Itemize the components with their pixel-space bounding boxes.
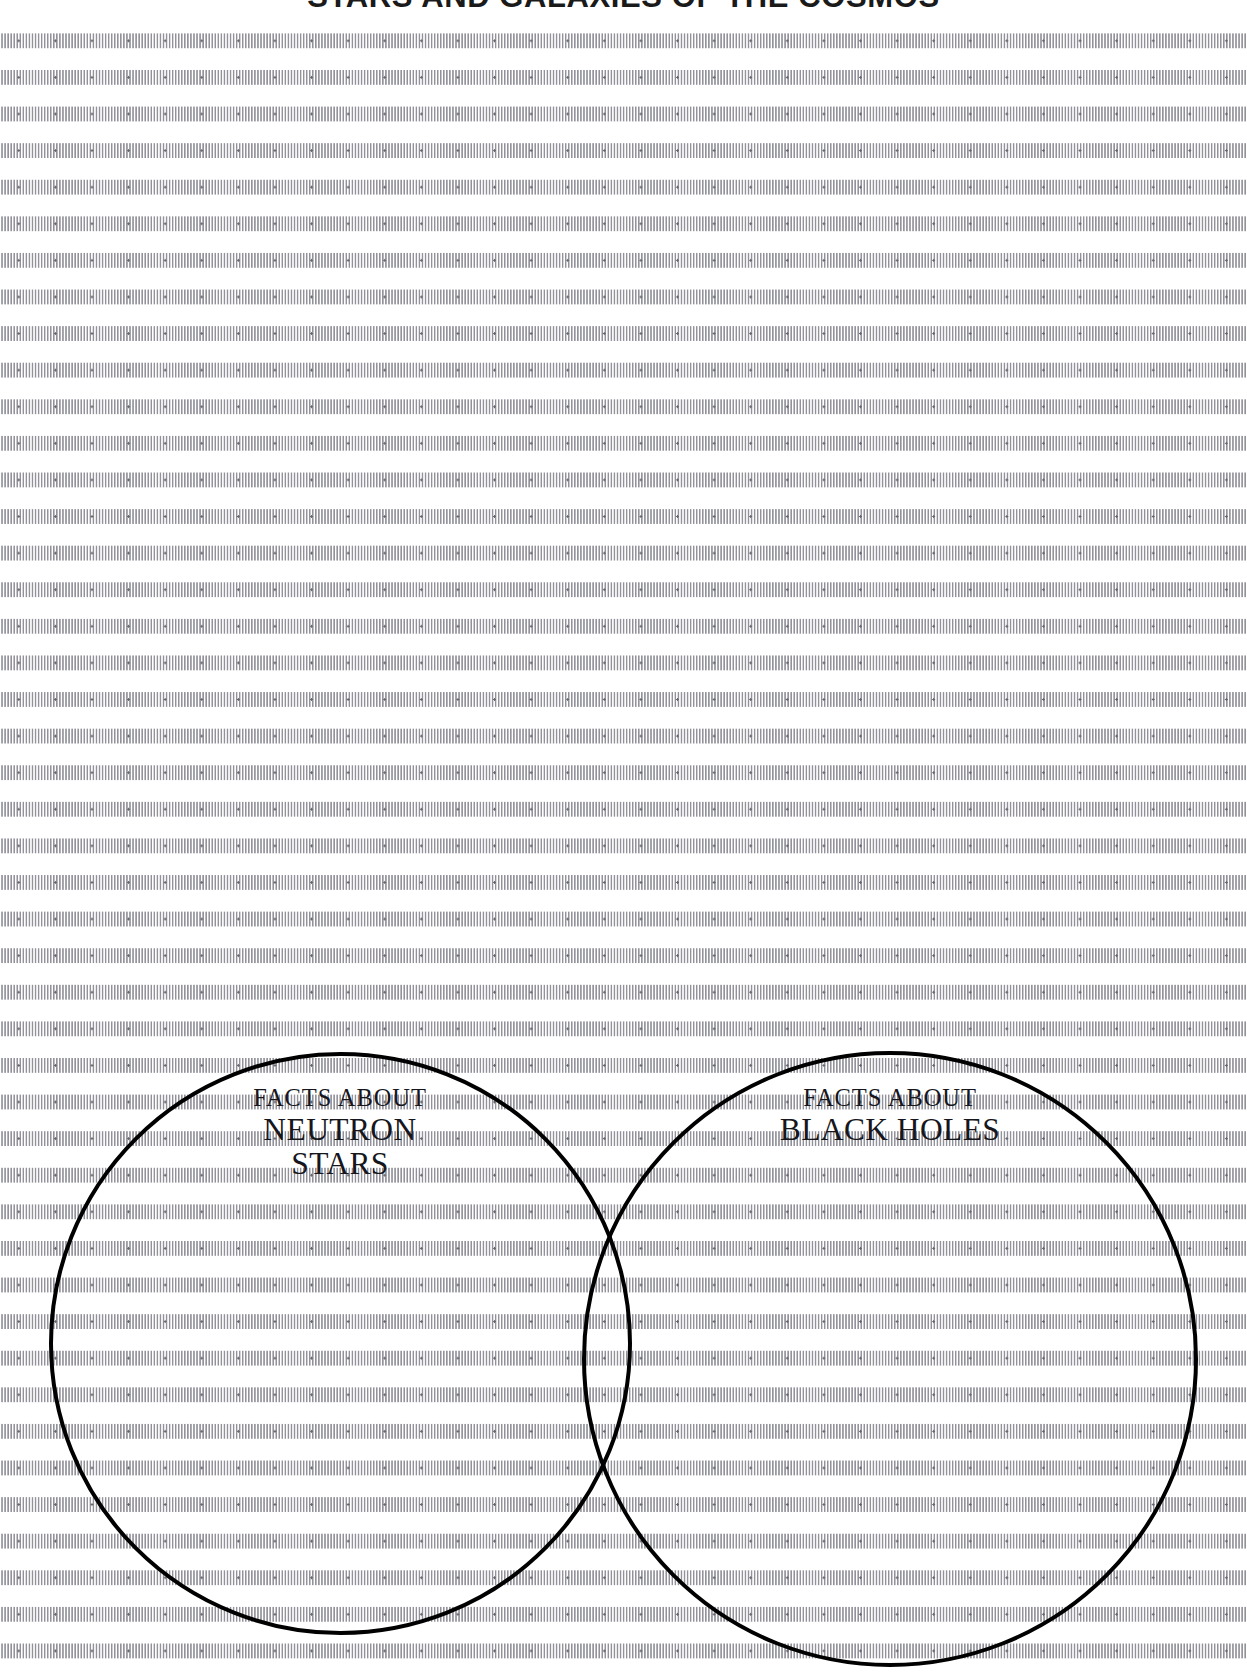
venn-circle-left[interactable]	[49, 1052, 632, 1635]
worksheet-page: STARS AND GALAXIES OF THE COSMOS FACTS A…	[0, 0, 1247, 1674]
venn-circle-right[interactable]	[582, 1051, 1198, 1667]
page-title: STARS AND GALAXIES OF THE COSMOS	[0, 0, 1247, 18]
